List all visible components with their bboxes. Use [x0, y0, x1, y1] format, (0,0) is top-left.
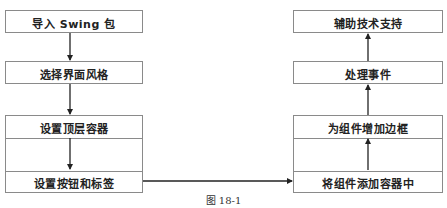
- figure-caption: 图 18-1: [0, 192, 447, 207]
- arrows-layer: [0, 0, 447, 208]
